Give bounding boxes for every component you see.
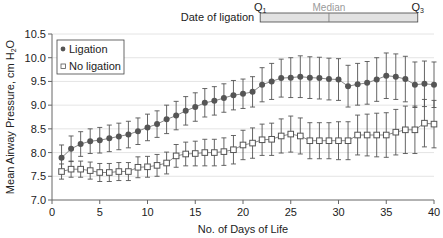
data-point — [336, 138, 342, 144]
data-point — [78, 166, 84, 172]
data-point — [240, 142, 246, 148]
y-tick-label: 7.5 — [31, 170, 46, 182]
data-point — [345, 138, 351, 144]
median-label: Median — [313, 2, 346, 13]
data-point — [97, 137, 103, 143]
data-point — [192, 104, 198, 110]
data-point — [135, 164, 141, 170]
data-point — [345, 83, 351, 89]
data-point — [154, 121, 160, 127]
y-tick-label: 7.0 — [31, 194, 46, 206]
open-square-marker-icon — [61, 64, 66, 69]
data-point — [364, 132, 370, 138]
data-point — [183, 108, 189, 114]
legend: Ligation No ligation — [57, 40, 124, 74]
x-tick-label: 35 — [380, 206, 392, 218]
y-tick-label: 10.5 — [25, 28, 46, 40]
data-point — [355, 132, 361, 138]
data-point — [135, 128, 141, 134]
q3-label: Q3 — [412, 1, 425, 14]
data-point — [307, 75, 313, 81]
data-point — [288, 75, 294, 81]
series-line — [62, 76, 435, 158]
data-point — [336, 77, 342, 83]
data-point — [421, 81, 427, 87]
data-point — [202, 150, 208, 156]
series-no-ligation — [59, 99, 437, 181]
series-line — [62, 123, 435, 172]
data-point — [97, 170, 103, 176]
data-point — [402, 76, 408, 82]
data-point — [68, 146, 74, 152]
airway-pressure-chart: 7.07.58.08.59.09.510.010.505101520253035… — [0, 0, 443, 238]
data-point — [278, 133, 284, 139]
x-tick-label: 40 — [428, 206, 440, 218]
data-point — [269, 78, 275, 84]
y-tick-label: 9.5 — [31, 75, 46, 87]
q1-label: Q1 — [254, 1, 267, 14]
data-point — [116, 169, 122, 175]
data-point — [278, 75, 284, 81]
y-axis-label: Mean Airway Pressure, cm H2O — [4, 39, 17, 194]
data-point — [221, 149, 227, 155]
data-point — [145, 124, 151, 130]
data-point — [59, 155, 65, 161]
data-point — [183, 151, 189, 157]
data-point — [106, 135, 112, 141]
data-point — [240, 91, 246, 97]
ligation-date-label: Date of ligation — [181, 11, 254, 23]
data-point — [202, 100, 208, 106]
x-tick-label: 25 — [285, 206, 297, 218]
iqr-bar — [260, 13, 418, 22]
data-point — [355, 81, 361, 87]
data-point — [412, 82, 418, 88]
data-point — [307, 138, 313, 144]
chart-container: 7.07.58.08.59.09.510.010.505101520253035… — [0, 0, 443, 238]
data-point — [259, 82, 265, 88]
data-point — [116, 133, 122, 139]
data-point — [298, 133, 304, 139]
data-point — [250, 89, 256, 95]
x-axis-label: No. of Days of Life — [198, 223, 289, 235]
filled-circle-marker-icon — [61, 47, 66, 52]
data-point — [78, 141, 84, 147]
data-point — [230, 92, 236, 98]
data-point — [374, 132, 380, 138]
data-point — [164, 160, 170, 166]
data-point — [316, 75, 322, 81]
data-point — [431, 121, 437, 127]
data-point — [259, 137, 265, 143]
data-point — [412, 127, 418, 133]
data-point — [145, 164, 151, 170]
x-tick-label: 5 — [97, 206, 103, 218]
data-point — [364, 80, 370, 86]
data-point — [126, 169, 132, 175]
y-tick-label: 9.0 — [31, 99, 46, 111]
data-point — [173, 153, 179, 159]
data-point — [383, 73, 389, 79]
legend-item-no-ligation: No ligation — [69, 60, 121, 72]
data-point — [297, 74, 303, 80]
data-point — [87, 138, 93, 144]
data-point — [393, 74, 399, 80]
data-point — [87, 168, 93, 174]
data-point — [326, 138, 332, 144]
x-tick-label: 15 — [189, 206, 201, 218]
data-point — [374, 77, 380, 83]
data-point — [288, 131, 294, 137]
y-tick-label: 10.0 — [25, 52, 46, 64]
data-point — [221, 95, 227, 101]
x-tick-label: 0 — [49, 206, 55, 218]
data-point — [173, 113, 179, 119]
data-point — [211, 98, 217, 104]
data-point — [68, 166, 74, 172]
data-point — [383, 132, 389, 138]
data-point — [154, 163, 160, 169]
data-point — [192, 151, 198, 157]
data-point — [250, 140, 256, 146]
data-point — [431, 82, 437, 88]
data-point — [326, 76, 332, 82]
data-point — [107, 170, 113, 176]
data-point — [59, 169, 65, 175]
ligation-date-annotation: Date of ligation Median Q1 Q3 — [181, 1, 424, 23]
